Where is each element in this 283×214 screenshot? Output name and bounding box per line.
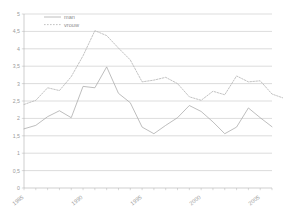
y-axis-tick-label: 0,5 bbox=[13, 168, 20, 174]
x-axis-tick-label: 1995 bbox=[129, 194, 143, 206]
x-axis-tick-label: 1985 bbox=[11, 194, 25, 206]
chart-canvas: 00,511,522,533,544,55 198519901995200020… bbox=[0, 0, 283, 214]
y-axis-tick-label: 3 bbox=[17, 81, 20, 87]
series-line-man bbox=[24, 67, 272, 134]
x-tick-marks-group bbox=[24, 188, 272, 190]
y-axis-tick-label: 1,5 bbox=[13, 133, 20, 139]
legend-label-vrouw: vrouw bbox=[64, 22, 80, 28]
y-axis-tick-label: 2,5 bbox=[13, 98, 20, 104]
y-axis-tick-label: 0 bbox=[17, 185, 20, 191]
chart-legend: manvrouw bbox=[44, 14, 80, 28]
x-axis-tick-label: 2000 bbox=[188, 194, 202, 206]
gridlines-group bbox=[24, 14, 272, 171]
x-axis-labels-group: 19851990199520002005 bbox=[11, 194, 261, 206]
y-axis-tick-label: 3,5 bbox=[13, 63, 20, 69]
y-axis-tick-label: 2 bbox=[17, 115, 20, 121]
legend-label-man: man bbox=[64, 14, 75, 20]
y-axis-tick-label: 5 bbox=[17, 11, 20, 17]
y-axis-tick-label: 4 bbox=[17, 46, 20, 52]
y-axis-tick-label: 4,5 bbox=[13, 28, 20, 34]
x-axis-tick-label: 1990 bbox=[70, 194, 84, 206]
y-axis-labels-group: 00,511,522,533,544,55 bbox=[13, 11, 20, 191]
y-axis-tick-label: 1 bbox=[17, 150, 20, 156]
line-chart: 00,511,522,533,544,55 198519901995200020… bbox=[0, 0, 283, 214]
x-axis-tick-label: 2005 bbox=[247, 194, 261, 206]
y-tick-marks-group bbox=[22, 14, 24, 188]
series-line-vrouw bbox=[24, 31, 283, 105]
